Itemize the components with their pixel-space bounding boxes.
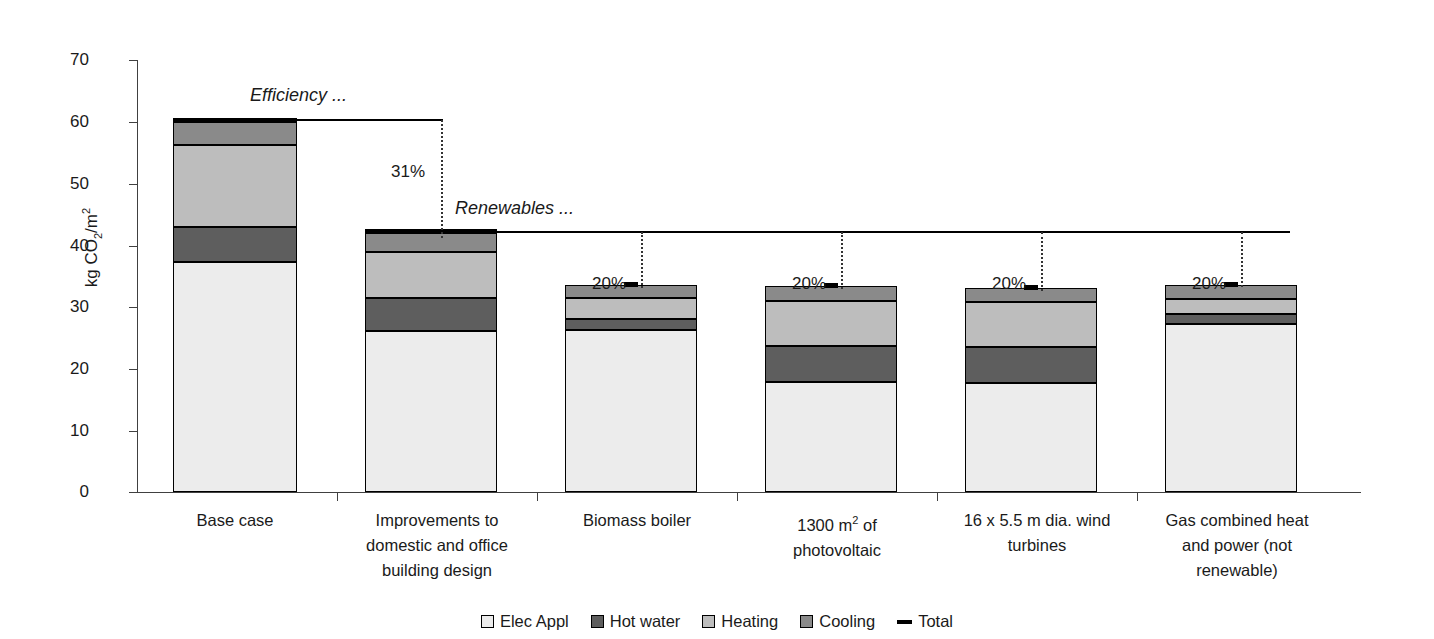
legend-label: Heating	[721, 612, 778, 631]
total-marker	[824, 283, 838, 288]
plot-area	[137, 60, 1360, 492]
y-axis-tick-label: 50	[70, 174, 89, 194]
x-axis-label-line: and power (not	[1137, 533, 1337, 558]
x-axis-label-wind-turbines: 16 x 5.5 m dia. wind turbines	[937, 508, 1137, 558]
bar-segment-heating	[365, 252, 497, 298]
pct-label-bar3: 20%	[592, 274, 626, 294]
bar-segment-elec-appl	[173, 262, 297, 492]
x-axis-label-line: Base case	[145, 508, 325, 533]
bar-segment-elec-appl	[1165, 324, 1297, 493]
bar-segment-heating	[173, 145, 297, 227]
leader-line-bar2	[441, 120, 443, 238]
x-axis-tick	[337, 493, 338, 501]
x-axis-label-base-case: Base case	[145, 508, 325, 533]
x-axis-label-photovoltaic: 1300 m2 of photovoltaic	[737, 508, 937, 563]
leader-line-bar4	[841, 232, 843, 289]
legend-item-cooling[interactable]: Cooling	[800, 612, 875, 631]
bar-segment-hot-water	[365, 298, 497, 331]
legend-item-total[interactable]: Total	[897, 612, 953, 631]
x-axis-label-line: photovoltaic	[737, 538, 937, 563]
x-axis-label-line: 1300 m2 of	[737, 508, 937, 538]
y-axis-title-mid: /m	[82, 214, 101, 233]
x-axis-label-biomass-boiler: Biomass boiler	[537, 508, 737, 533]
y-axis-tick-label: 0	[80, 482, 89, 502]
bar-segment-hot-water	[565, 319, 697, 330]
x-axis-label-line: Biomass boiler	[537, 508, 737, 533]
bar-segment-cooling	[1165, 285, 1297, 299]
chart-root: kg CO2/m2 70 60 50 40 30 20 10 0	[0, 0, 1434, 639]
bar-segment-elec-appl	[565, 330, 697, 492]
legend-swatch-icon	[800, 615, 813, 628]
x-axis-label-improvements: Improvements to domestic and office buil…	[337, 508, 537, 583]
bar-segment-elec-appl	[365, 331, 497, 492]
legend-item-heating[interactable]: Heating	[702, 612, 778, 631]
bar-segment-cooling	[965, 288, 1097, 302]
y-axis-title-sup: 2	[80, 208, 92, 214]
legend-swatch-icon	[702, 615, 715, 628]
bar-segment-cooling	[365, 233, 497, 252]
bar-segment-elec-appl	[965, 383, 1097, 492]
x-axis-label-gas-chp: Gas combined heat and power (not renewab…	[1137, 508, 1337, 583]
bar-gas-chp[interactable]	[1165, 285, 1297, 492]
legend-label: Cooling	[819, 612, 875, 631]
annotation-efficiency: Efficiency ...	[250, 85, 347, 106]
bar-biomass-boiler[interactable]	[565, 285, 697, 492]
legend-swatch-icon	[591, 615, 604, 628]
x-axis-line	[137, 492, 1361, 493]
x-axis-label-text: 1300 m	[797, 516, 852, 534]
x-axis-tick	[737, 493, 738, 501]
bar-segment-hot-water	[765, 346, 897, 382]
x-axis-label-line: 16 x 5.5 m dia. wind	[937, 508, 1137, 533]
total-marker	[1224, 282, 1238, 287]
leader-line-bar5	[1041, 232, 1043, 291]
legend-label: Elec Appl	[500, 612, 569, 631]
bar-improvements[interactable]	[365, 233, 497, 492]
pct-label-bar5: 20%	[992, 274, 1026, 294]
bar-wind-turbines[interactable]	[965, 288, 1097, 492]
y-axis-tick-label: 60	[70, 112, 89, 132]
x-axis-label-text: of	[858, 516, 876, 534]
y-axis-tick	[129, 492, 138, 493]
pct-label-bar6: 20%	[1192, 274, 1226, 294]
total-marker	[624, 282, 638, 287]
bar-segment-heating	[565, 298, 697, 318]
bar-segment-elec-appl	[765, 382, 897, 493]
chart-legend: Elec Appl Hot water Heating Cooling Tota…	[0, 612, 1434, 631]
legend-swatch-icon	[481, 615, 494, 628]
legend-label: Hot water	[610, 612, 681, 631]
renewables-reference-line	[430, 231, 1290, 233]
x-axis-tick	[537, 493, 538, 501]
x-axis-tick	[1137, 493, 1138, 501]
bar-segment-hot-water	[1165, 314, 1297, 324]
legend-item-elec-appl[interactable]: Elec Appl	[481, 612, 569, 631]
bar-segment-heating	[765, 301, 897, 346]
x-axis-label-line: Gas combined heat	[1137, 508, 1337, 533]
y-axis-tick-label: 30	[70, 297, 89, 317]
bar-segment-cooling	[173, 122, 297, 145]
legend-item-hot-water[interactable]: Hot water	[591, 612, 681, 631]
legend-line-icon	[897, 620, 912, 624]
bar-photovoltaic[interactable]	[765, 286, 897, 492]
legend-label: Total	[918, 612, 953, 631]
bar-segment-heating	[965, 302, 1097, 347]
total-marker	[1024, 285, 1038, 290]
y-axis-tick-label: 20	[70, 359, 89, 379]
bar-base-case[interactable]	[173, 122, 297, 492]
y-axis-tick-label: 40	[70, 236, 89, 256]
x-axis-label-line: domestic and office	[337, 533, 537, 558]
leader-line-bar6	[1241, 232, 1243, 287]
y-axis-title-sub: 2	[92, 233, 104, 239]
efficiency-reference-line	[173, 119, 443, 121]
pct-label-bar4: 20%	[792, 274, 826, 294]
x-axis-label-line: Improvements to	[337, 508, 537, 533]
x-axis-tick	[937, 493, 938, 501]
x-axis-label-line: turbines	[937, 533, 1137, 558]
x-axis-label-line: building design	[337, 558, 537, 583]
bar-segment-hot-water	[965, 347, 1097, 383]
leader-line-bar3	[641, 232, 643, 288]
y-axis-tick-label: 10	[70, 421, 89, 441]
x-axis-label-line: renewable)	[1137, 558, 1337, 583]
bar-segment-heating	[1165, 299, 1297, 314]
bar-segment-cooling	[765, 286, 897, 301]
annotation-renewables: Renewables ...	[455, 198, 574, 219]
